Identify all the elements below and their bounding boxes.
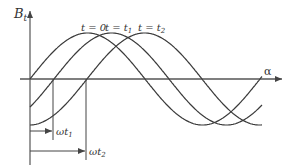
curve-label-t0: t = 0 [81, 22, 107, 33]
x-axis-label: α [264, 65, 272, 78]
shift-label-t1: ωt1 [56, 126, 73, 139]
y-axis-label: Bt [13, 6, 28, 23]
traveling-wave-diagram: Bt α t = 0 t = t1 t = t2 ωt1 ωt2 [0, 0, 301, 167]
shift-label-t2: ωt2 [89, 146, 106, 159]
